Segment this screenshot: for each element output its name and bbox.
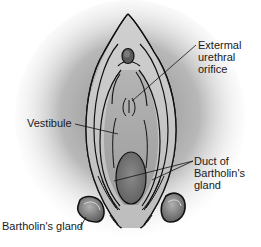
label-line: Duct of [194, 155, 245, 167]
label-bartholins-gland: Bartholin's gland [2, 220, 83, 232]
label-line: Vestibule [27, 117, 72, 129]
bartholin-gland-right [161, 193, 185, 222]
label-line: orifice [198, 63, 241, 75]
label-vestibule: Vestibule [27, 117, 72, 129]
vaginal-opening [116, 152, 146, 204]
label-line: Extermal [198, 39, 241, 51]
label-line: Bartholin's [194, 167, 245, 179]
label-line: urethral [198, 51, 241, 63]
label-line: Bartholin's gland [2, 220, 83, 232]
label-line: gland [194, 179, 245, 191]
anatomy-diagram: Extermal urethral orifice Vestibule Duct… [0, 0, 261, 247]
label-duct-of-bartholins-gland: Duct of Bartholin's gland [194, 155, 245, 191]
label-external-urethral-orifice: Extermal urethral orifice [198, 39, 241, 75]
